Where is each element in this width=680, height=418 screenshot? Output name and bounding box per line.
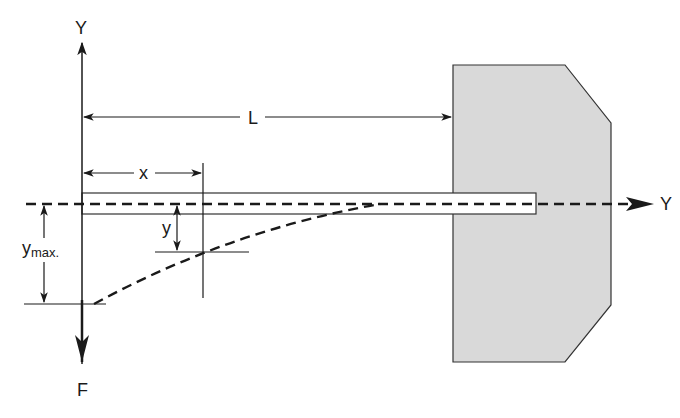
- deflection-curve: [94, 204, 380, 304]
- cantilever-diagram: Y F Y L x y ymax.: [0, 0, 680, 418]
- length-label: L: [248, 108, 258, 128]
- deflection-label: y: [162, 218, 171, 238]
- neutral-axis-arrow-head: [626, 197, 654, 211]
- position-label: x: [139, 163, 148, 183]
- max-deflection-label-base: y: [22, 238, 31, 258]
- force-label: F: [77, 380, 88, 400]
- y-axis-label-top: Y: [75, 18, 87, 38]
- max-deflection-label-sub: max.: [31, 245, 59, 260]
- max-deflection-label: ymax.: [22, 238, 59, 260]
- y-axis-label-right: Y: [660, 194, 672, 214]
